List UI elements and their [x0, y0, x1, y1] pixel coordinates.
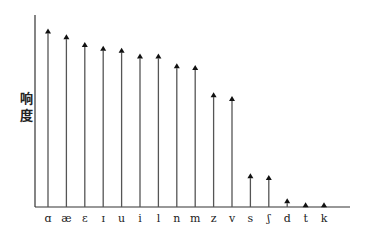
x-tick-label: æ: [61, 212, 71, 225]
bar-12: [266, 175, 272, 207]
bar-15: [321, 202, 327, 207]
x-tick-label: z: [211, 212, 217, 225]
x-tick-label: ɑ: [44, 212, 51, 225]
x-tick-label: d: [284, 212, 291, 225]
x-tick-label: ɪ: [101, 212, 105, 225]
x-tick-label: ʃ: [265, 212, 271, 225]
bar-1: [63, 34, 69, 207]
bars: [45, 28, 327, 207]
x-tick-label: n: [173, 212, 180, 225]
bar-3: [100, 46, 106, 207]
bar-4: [119, 48, 125, 207]
bar-10: [229, 96, 235, 207]
x-tick-label: u: [118, 212, 125, 225]
bar-2: [82, 42, 88, 207]
bar-5: [137, 54, 143, 207]
x-tick-label: m: [190, 212, 201, 225]
sonority-chart: ɑæɛɪuilnmzvsʃdtk: [0, 0, 369, 234]
x-tick-label: s: [248, 212, 254, 225]
bar-14: [303, 202, 309, 207]
axes: [35, 15, 350, 207]
bar-9: [211, 92, 217, 207]
x-tick-label: t: [303, 212, 308, 225]
bar-0: [45, 28, 51, 207]
bar-7: [174, 63, 180, 207]
bar-8: [192, 65, 198, 207]
x-tick-labels: ɑæɛɪuilnmzvsʃdtk: [44, 212, 327, 225]
x-tick-label: i: [138, 212, 142, 225]
x-tick-label: ɛ: [82, 212, 88, 225]
bar-11: [247, 173, 253, 207]
bar-6: [155, 54, 161, 207]
x-tick-label: v: [228, 212, 236, 225]
x-tick-label: k: [321, 212, 328, 225]
bar-13: [284, 198, 290, 207]
x-tick-label: l: [157, 212, 161, 225]
